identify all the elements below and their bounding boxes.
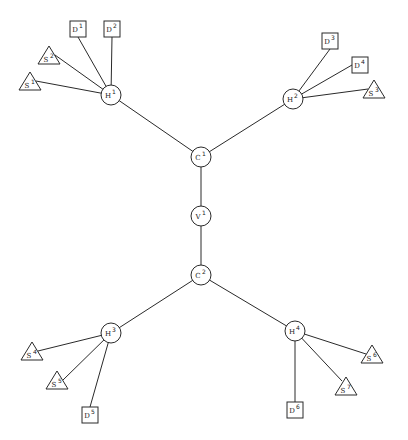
node-label: D	[324, 38, 330, 46]
node-s2: S2	[38, 46, 60, 64]
node-label-superscript: 5	[58, 377, 62, 384]
edge-h3-d5	[90, 333, 111, 407]
edge-c1-h2	[201, 99, 293, 157]
node-label-superscript: 7	[347, 383, 351, 390]
node-label: H	[105, 92, 111, 100]
triangle-node-shape	[46, 371, 68, 389]
node-d5: D5	[82, 407, 98, 423]
node-label-superscript: 4	[361, 58, 365, 65]
node-h4: H4	[285, 321, 305, 341]
node-h2: H2	[283, 89, 303, 109]
node-label-superscript: 3	[112, 326, 116, 333]
node-label: C	[195, 154, 200, 162]
node-label: D	[289, 407, 295, 415]
circle-node-shape	[191, 206, 211, 226]
edge-h2-s3	[293, 89, 368, 99]
triangle-node-shape	[361, 345, 383, 363]
node-label: D	[84, 412, 90, 420]
node-label: C	[195, 272, 200, 280]
node-h3: H3	[101, 323, 121, 343]
node-s6: S6	[361, 345, 383, 363]
node-label: S	[25, 82, 30, 90]
node-label-superscript: 1	[202, 209, 206, 216]
node-label-superscript: 4	[33, 348, 37, 355]
node-label: V	[194, 213, 201, 221]
node-d6: D6	[287, 402, 303, 418]
node-v1: V1	[191, 206, 211, 226]
node-label: S	[369, 90, 374, 98]
node-c1: C1	[191, 147, 211, 167]
node-c2: C2	[191, 265, 211, 285]
node-label: D	[72, 26, 78, 34]
triangle-node-shape	[335, 377, 357, 395]
node-d1: D1	[70, 21, 86, 37]
node-label: H	[287, 96, 293, 104]
nodes-layer: C1V1C2H1H2H3H4D1D2D3D4D5D6S1S2S3S4S5S6S7	[19, 21, 385, 423]
node-label-superscript: 1	[31, 78, 35, 85]
node-label: S	[367, 355, 372, 363]
node-label-superscript: 4	[296, 324, 300, 331]
edge-c2-h3	[111, 275, 201, 333]
edge-h1-s1	[36, 81, 111, 95]
node-label: S	[27, 352, 32, 360]
edge-c2-h4	[201, 275, 295, 331]
node-label: D	[354, 62, 360, 70]
node-label-superscript: 1	[79, 22, 83, 29]
node-label-superscript: 6	[373, 351, 377, 358]
node-label-superscript: 1	[112, 88, 116, 95]
node-label-superscript: 2	[113, 22, 117, 29]
node-label: S	[44, 56, 49, 64]
node-label-superscript: 3	[331, 34, 335, 41]
node-label: H	[105, 330, 111, 338]
node-label-superscript: 6	[296, 403, 300, 410]
edge-c1-h1	[111, 95, 201, 157]
node-d4: D4	[352, 57, 368, 73]
triangle-node-shape	[38, 46, 60, 64]
circle-node-shape	[191, 147, 211, 167]
node-label-superscript: 1	[202, 150, 206, 157]
node-label-superscript: 2	[202, 268, 206, 275]
node-label: D	[106, 26, 112, 34]
node-s7: S7	[335, 377, 357, 395]
tree-diagram: C1V1C2H1H2H3H4D1D2D3D4D5D6S1S2S3S4S5S6S7	[0, 0, 408, 440]
node-label: S	[341, 387, 346, 395]
node-label-superscript: 5	[91, 408, 95, 415]
node-h1: H1	[101, 85, 121, 105]
edge-h3-s4	[38, 333, 111, 351]
node-s5: S5	[46, 371, 68, 389]
node-label: S	[52, 381, 57, 389]
node-d3: D3	[322, 33, 338, 49]
node-label-superscript: 3	[375, 86, 379, 93]
node-label-superscript: 2	[50, 52, 54, 59]
node-label-superscript: 2	[294, 92, 298, 99]
node-label: H	[289, 328, 295, 336]
circle-node-shape	[191, 265, 211, 285]
node-d2: D2	[104, 21, 120, 37]
